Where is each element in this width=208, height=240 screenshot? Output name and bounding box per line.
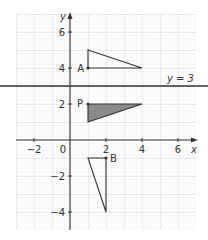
point-b-dot [104,156,107,159]
point-a-label: A [77,63,84,74]
y-tick-label: 4 [59,63,65,74]
coordinate-diagram: −2 0 2 4 6 x 6 4 2 −2 −4 y y = 3 A P B [0,0,208,240]
line-y-equals-3-label: y = 3 [166,73,194,84]
x-axis-label: x [190,144,197,155]
x-tick-label: 4 [139,144,145,155]
point-p-dot [86,102,89,105]
point-p-label: P [77,98,83,109]
point-a-dot [86,66,89,69]
x-tick-label: 0 [60,144,66,155]
y-axis-label: y [59,11,67,22]
y-tick-label: −4 [50,207,65,218]
y-tick-label: −2 [50,171,65,182]
point-b-label: B [110,153,117,164]
y-tick-label: 2 [59,99,65,110]
x-tick-label: −2 [27,144,42,155]
y-tick-label: 6 [59,27,65,38]
x-tick-label: 6 [175,144,181,155]
x-tick-label: 2 [103,144,109,155]
